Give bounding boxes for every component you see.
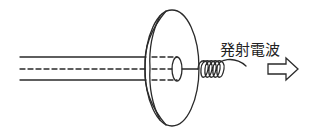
feed-cylinder-face	[172, 57, 182, 81]
emitted-wave-label: 発射電波	[220, 38, 280, 59]
cylinder-feed	[172, 57, 198, 81]
cable	[20, 57, 177, 80]
diagram-canvas	[0, 0, 313, 135]
helix-coil	[198, 60, 246, 78]
direction-arrow-icon	[268, 58, 298, 80]
